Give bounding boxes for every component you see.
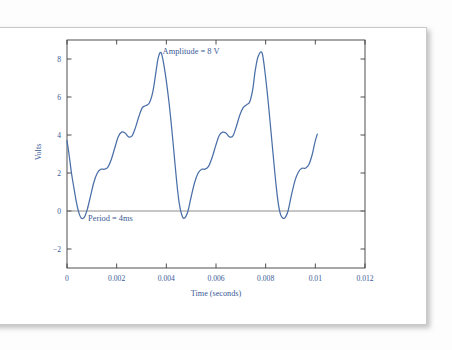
axis-ticks bbox=[67, 40, 365, 268]
voltage-waveform-line bbox=[67, 52, 317, 219]
waveform-chart: 00.0020.0040.0060.0080.010.012 −202468 T… bbox=[0, 0, 452, 350]
y-axis-tick-labels: −202468 bbox=[53, 55, 61, 254]
x-axis-tick-labels: 00.0020.0040.0060.0080.010.012 bbox=[65, 274, 374, 283]
y-tick-label: 6 bbox=[57, 93, 61, 102]
y-tick-label: 8 bbox=[57, 55, 61, 64]
x-tick-label: 0 bbox=[65, 274, 69, 283]
period-annotation: Period = 4ms bbox=[88, 214, 133, 223]
y-tick-label: −2 bbox=[53, 245, 61, 254]
x-tick-label: 0.01 bbox=[309, 274, 322, 283]
y-tick-label: 0 bbox=[57, 207, 61, 216]
x-tick-label: 0.012 bbox=[356, 274, 373, 283]
x-tick-label: 0.002 bbox=[108, 274, 125, 283]
y-axis-title: Volts bbox=[34, 144, 43, 161]
chart-svg: 00.0020.0040.0060.0080.010.012 −202468 T… bbox=[0, 0, 452, 350]
x-tick-label: 0.008 bbox=[257, 274, 274, 283]
x-axis-title: Time (seconds) bbox=[191, 289, 242, 298]
y-tick-label: 2 bbox=[57, 169, 61, 178]
x-tick-label: 0.006 bbox=[207, 274, 224, 283]
amplitude-annotation: Amplitude = 8 V bbox=[163, 47, 220, 56]
chart-annotations: Amplitude = 8 VPeriod = 4ms bbox=[88, 47, 219, 223]
y-tick-label: 4 bbox=[57, 131, 61, 140]
x-tick-label: 0.004 bbox=[158, 274, 175, 283]
plot-frame bbox=[67, 40, 365, 268]
